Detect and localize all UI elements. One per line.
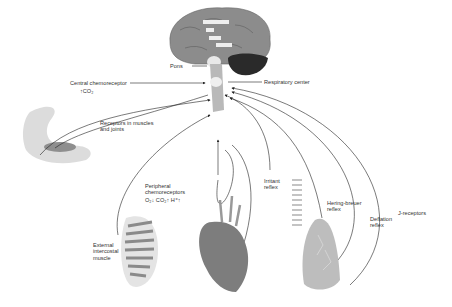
central-chemoreceptor-label: Central chemoreceptor bbox=[70, 80, 127, 86]
external-intercostal-label: External intercostal muscle bbox=[93, 242, 119, 261]
lung-icon bbox=[302, 219, 340, 290]
trachea-icon bbox=[292, 180, 302, 225]
diagram-artwork bbox=[0, 0, 452, 307]
pons-label: Pons bbox=[170, 63, 183, 69]
deflation-reflex-label: Deflation reflex bbox=[370, 216, 392, 229]
heart-icon bbox=[199, 196, 248, 292]
peripheral-stimuli: O₂↓ CO₂↑ H⁺↑ bbox=[145, 197, 181, 203]
receptors-muscles-label: Receptors in muscles and joints bbox=[100, 120, 153, 133]
irritant-reflex-label: Irritant reflex bbox=[264, 178, 280, 191]
brainstem-icon bbox=[207, 56, 224, 112]
ribcage-icon bbox=[121, 216, 158, 287]
j-receptors-label: J-receptors bbox=[398, 210, 426, 216]
respiratory-center-label: Respiratory center bbox=[264, 79, 310, 85]
peripheral-chemoreceptors-label: Peripheral chemoreceptors bbox=[145, 183, 185, 196]
hering-breuer-label: Hering-breuer reflex bbox=[327, 200, 362, 213]
respiratory-control-diagram: Pons Respiratory center Central chemorec… bbox=[0, 0, 452, 307]
central-chemoreceptor-stimulus: ↑CO₂ bbox=[80, 88, 93, 94]
